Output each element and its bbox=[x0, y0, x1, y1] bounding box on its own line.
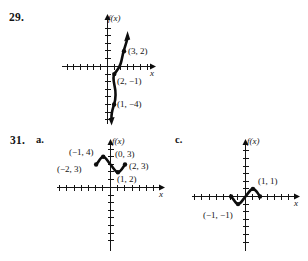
curve-29-lower-arrowhead bbox=[109, 117, 115, 126]
point-3-2 bbox=[122, 49, 126, 53]
graph-problem-31c: f(x) x (1, 1) (−1, −1) bbox=[190, 137, 302, 257]
point-neg2-0 bbox=[229, 194, 233, 198]
graph-31c-y-axis-label: f(x) bbox=[247, 137, 260, 146]
point-neg2-3 bbox=[94, 162, 98, 166]
graph-29-y-axis-label: f(x) bbox=[108, 14, 121, 23]
point-1-1 bbox=[251, 187, 255, 191]
problem-31-part-c-letter: c. bbox=[175, 134, 182, 145]
graph-29-point-label-2-neg1: (2, −1) bbox=[117, 77, 142, 86]
graph-31c-x-axis-label: x bbox=[294, 199, 298, 208]
point-neg1-4 bbox=[101, 155, 105, 159]
graph-31c-point-label-neg1-neg1: (−1, −1) bbox=[203, 211, 233, 220]
graph-31a-point-label-2-3: (2, 3) bbox=[129, 162, 149, 171]
problem-number-31: 31. bbox=[10, 134, 25, 146]
point-2-neg1 bbox=[112, 72, 116, 76]
point-1-neg4 bbox=[112, 102, 116, 106]
graph-31a-x-axis-label: x bbox=[159, 190, 163, 199]
point-neg1-neg1 bbox=[236, 202, 240, 206]
graph-problem-29: f(x) x (3, 2) (2, −1) (1, −4) bbox=[60, 14, 156, 126]
problem-number-29: 29. bbox=[9, 11, 24, 23]
problem-31-part-a-letter: a. bbox=[36, 134, 44, 145]
graph-31a-point-label-neg2-3: (−2, 3) bbox=[57, 165, 82, 174]
graph-31a-point-label-0-3: (0, 3) bbox=[115, 150, 135, 159]
point-2-0 bbox=[258, 194, 262, 198]
curve-29-upper-arrowhead bbox=[124, 31, 130, 41]
graph-29-svg bbox=[60, 14, 156, 126]
graph-29-point-label-1-neg4: (1, −4) bbox=[117, 100, 142, 109]
graph-31c-svg bbox=[190, 137, 302, 257]
textbook-figure-page: 29. bbox=[0, 0, 308, 261]
graph-problem-31a: f(x) x (−1, 4) (−2, 3) (0, 3) (2, 3) (1,… bbox=[55, 137, 167, 257]
graph-31a-point-label-neg1-4: (−1, 4) bbox=[69, 148, 94, 157]
graph-31c-point-label-1-1: (1, 1) bbox=[258, 177, 278, 186]
point-2-3 bbox=[123, 162, 127, 166]
graph-29-point-label-3-2: (3, 2) bbox=[128, 47, 148, 56]
graph-31a-y-axis-label: f(x) bbox=[112, 137, 125, 146]
graph-29-x-axis-label: x bbox=[150, 69, 154, 78]
graph-31a-point-label-1-2: (1, 2) bbox=[117, 175, 137, 184]
